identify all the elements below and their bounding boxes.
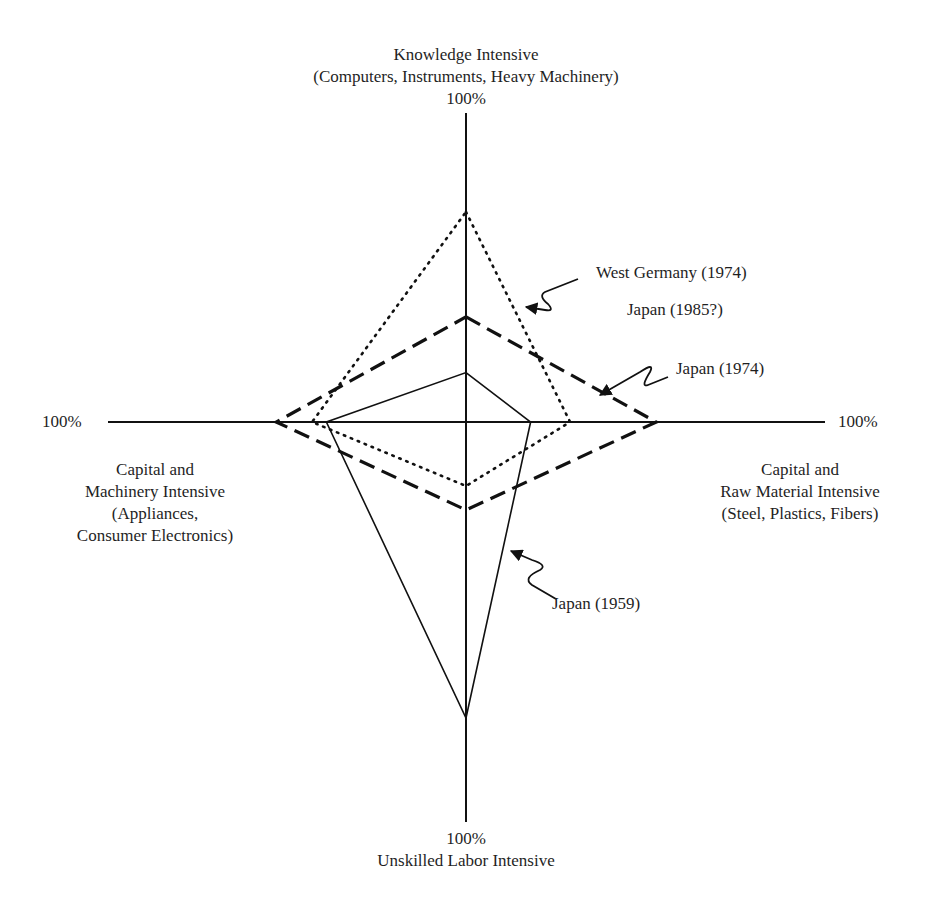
radar-chart: [0, 0, 928, 906]
axis-label-right: Capital and Raw Material Intensive (Stee…: [670, 459, 928, 525]
axis-top-max: 100%: [266, 88, 666, 110]
axis-label-top: Knowledge Intensive (Computers, Instrume…: [266, 44, 666, 110]
callout-japan-1985: Japan (1985?): [627, 299, 723, 321]
axis-right-line3: (Steel, Plastics, Fibers): [670, 503, 928, 525]
axis-right-max: 100%: [838, 411, 878, 433]
callout-arrow-japan-1959: [511, 551, 556, 599]
callout-japan-1974: Japan (1974): [676, 358, 764, 380]
callout-arrow-japan-1974: [600, 367, 668, 395]
axis-left-line3: (Appliances,: [20, 503, 290, 525]
axis-left-max: 100%: [42, 411, 82, 433]
axis-bottom-title: Unskilled Labor Intensive: [266, 850, 666, 872]
callout-japan-1959: Japan (1959): [552, 593, 640, 615]
axis-left-line4: Consumer Electronics): [20, 525, 290, 547]
axis-right-line2: Raw Material Intensive: [670, 481, 928, 503]
axis-top-subtitle: (Computers, Instruments, Heavy Machinery…: [266, 66, 666, 88]
series-polygon-dotted: [312, 212, 570, 486]
axis-label-bottom: 100% Unskilled Labor Intensive: [266, 828, 666, 872]
callout-west-germany: West Germany (1974): [596, 262, 747, 284]
axis-left-line2: Machinery Intensive: [20, 481, 290, 503]
callout-arrow-west-germany: [526, 279, 578, 310]
axis-left-line1: Capital and: [20, 459, 290, 481]
axis-right-line1: Capital and: [670, 459, 928, 481]
series-polygon-solid: [326, 373, 530, 718]
axis-label-left: Capital and Machinery Intensive (Applian…: [20, 459, 290, 547]
axis-top-title: Knowledge Intensive: [266, 44, 666, 66]
axis-bottom-max: 100%: [266, 828, 666, 850]
